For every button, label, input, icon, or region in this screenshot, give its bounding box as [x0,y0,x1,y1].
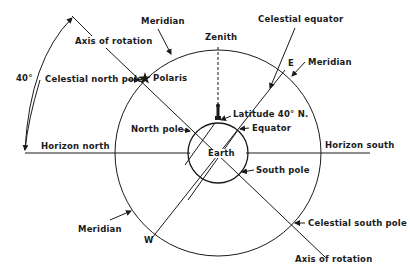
meridian-left-label: Meridian [78,225,122,234]
axis-of-rotation-top-label: Axis of rotation [75,37,152,46]
angle-arc [25,18,72,150]
equator-pointer [240,128,249,129]
latitude-pointer [221,116,231,120]
south-pole-label: South pole [256,166,310,175]
celestial-sphere-diagram: 40° Axis of rotation Meridian Zenith Cel… [0,0,410,275]
latitude-line [188,130,238,200]
horizon-south-label: Horizon south [325,141,395,150]
celestial-equator-label: Celestial equator [258,15,343,24]
axis-of-rotation-bottom-label: Axis of rotation [295,255,372,264]
meridian-left-pointer [110,211,131,220]
latitude-label: Latitude 40° N. [233,110,308,119]
angle-label: 40° [16,74,33,83]
celestial-south-pole-label: Celestial south pole [308,219,407,228]
south-pole-pointer [242,170,254,172]
meridian-top-label: Meridian [141,17,185,26]
polaris-label: Polaris [153,74,187,83]
east-label: E [288,59,294,68]
west-label: W [144,236,154,245]
earth-label: Earth [207,149,236,158]
meridian-right-label: Meridian [308,58,352,67]
celestial-north-pole-label: Celestial north pole [45,75,143,84]
equator-label: Equator [252,124,291,133]
observer-icon [215,104,221,120]
axis-of-rotation [72,16,92,36]
north-pole-label: North pole [131,125,184,134]
horizon-north-label: Horizon north [41,142,110,151]
zenith-label: Zenith [205,33,237,42]
meridian-top-pointer [158,29,171,54]
